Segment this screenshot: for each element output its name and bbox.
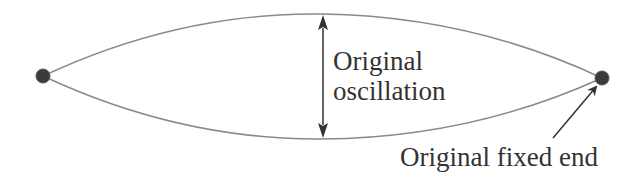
right-fixed-end-dot (595, 71, 609, 85)
fixed-end-leader-arrow (553, 87, 596, 138)
arrowhead-up-icon (318, 15, 328, 30)
fixed-end-label: Original fixed end (400, 144, 598, 171)
arrowhead-down-icon (318, 123, 328, 138)
standing-wave-diagram: Original oscillation Original fixed end (0, 0, 641, 185)
oscillation-label-line1: Original (333, 48, 423, 75)
left-fixed-end-dot (36, 69, 50, 83)
oscillation-label-line2: oscillation (333, 78, 445, 105)
